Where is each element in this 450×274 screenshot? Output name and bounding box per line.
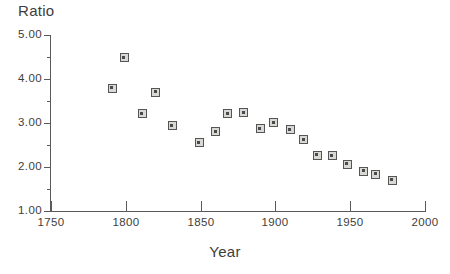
data-point bbox=[108, 84, 117, 93]
y-tick-major bbox=[44, 211, 51, 212]
scatter-chart: Ratio 5.004.003.002.001.00 1750180018501… bbox=[0, 0, 450, 274]
y-tick-label: 2.00 bbox=[0, 160, 42, 172]
x-tick-major bbox=[201, 201, 202, 211]
y-tick-minor bbox=[47, 57, 51, 58]
data-point bbox=[151, 88, 160, 97]
y-tick-label: 4.00 bbox=[0, 72, 42, 84]
x-tick-major bbox=[275, 201, 276, 211]
x-tick-label: 1800 bbox=[103, 216, 149, 228]
data-point bbox=[256, 124, 265, 133]
y-tick-minor bbox=[47, 145, 51, 146]
data-point bbox=[168, 121, 177, 130]
y-tick-label: 5.00 bbox=[0, 28, 42, 40]
data-point bbox=[359, 167, 368, 176]
y-tick-major bbox=[44, 79, 51, 80]
y-tick-label: 1.00 bbox=[0, 204, 42, 216]
data-point bbox=[138, 109, 147, 118]
data-point bbox=[223, 109, 232, 118]
y-tick-label: 3.00 bbox=[0, 116, 42, 128]
x-tick-major bbox=[425, 201, 426, 211]
y-tick-major bbox=[44, 167, 51, 168]
x-tick-label: 1750 bbox=[28, 216, 74, 228]
x-tick-label: 2000 bbox=[402, 216, 448, 228]
data-point bbox=[195, 138, 204, 147]
y-tick-major bbox=[44, 35, 51, 36]
y-tick-minor bbox=[47, 101, 51, 102]
data-point bbox=[269, 118, 278, 127]
data-point bbox=[299, 135, 308, 144]
data-point bbox=[120, 53, 129, 62]
data-point bbox=[211, 127, 220, 136]
x-tick-major bbox=[350, 201, 351, 211]
data-point bbox=[313, 151, 322, 160]
x-tick-major bbox=[51, 201, 52, 211]
data-point bbox=[328, 151, 337, 160]
data-point bbox=[371, 170, 380, 179]
y-tick-minor bbox=[47, 189, 51, 190]
x-axis-title: Year bbox=[0, 243, 450, 260]
x-tick-major bbox=[126, 201, 127, 211]
x-axis-line bbox=[50, 211, 426, 212]
x-tick-label: 1950 bbox=[327, 216, 373, 228]
y-axis-title: Ratio bbox=[18, 2, 55, 19]
data-point bbox=[388, 176, 397, 185]
x-tick-label: 1900 bbox=[252, 216, 298, 228]
y-tick-major bbox=[44, 123, 51, 124]
data-point bbox=[343, 160, 352, 169]
data-point bbox=[286, 125, 295, 134]
data-point bbox=[239, 108, 248, 117]
x-tick-label: 1850 bbox=[178, 216, 224, 228]
